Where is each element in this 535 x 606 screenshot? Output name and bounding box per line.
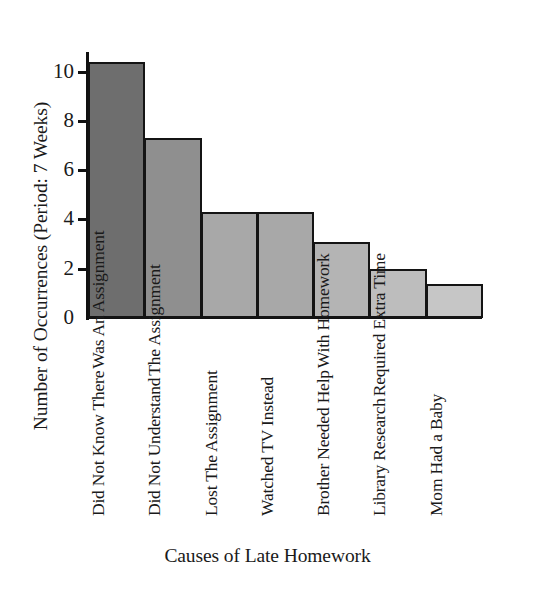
bar[interactable]	[201, 212, 258, 318]
y-axis-tick-label-wrap: 0	[40, 318, 74, 319]
y-axis-tick	[78, 169, 87, 172]
x-axis-tick-label-line: Was An Assignment	[88, 231, 109, 371]
x-axis-tick-label: Watched TV Instead	[257, 322, 313, 518]
x-axis-tick-label-line: Required Extra Time	[369, 253, 390, 398]
x-axis-tick-label-line: Brother Needed Help	[313, 370, 334, 518]
y-axis-tick-label-wrap: 6	[40, 170, 74, 171]
x-axis-tick-label: Brother Needed HelpWith Homework	[313, 322, 369, 518]
x-axis-tick-label: Lost The Assignment	[201, 322, 257, 518]
x-axis-tick-label-line: Mom Had a Baby	[426, 394, 447, 518]
bar-chart: Number of Occurrences (Period: 7 Weeks) …	[0, 0, 535, 606]
x-axis-tick-label: Library ResearchRequired Extra Time	[369, 322, 425, 518]
y-axis-tick-label: 8	[46, 110, 74, 131]
x-axis-tick-label-line: Did Not Understand	[144, 378, 165, 518]
y-axis-tick-label: 4	[46, 208, 74, 229]
y-axis-tick	[78, 120, 87, 123]
y-axis-tick-label: 0	[46, 307, 74, 328]
y-axis-tick-label-wrap: 8	[40, 121, 74, 122]
y-axis-tick-label-wrap: 10	[40, 72, 74, 73]
bar[interactable]	[257, 212, 314, 318]
x-axis-tick-label: Mom Had a Baby	[426, 322, 482, 518]
y-axis-tick-label: 10	[46, 61, 74, 82]
y-axis-tick	[78, 268, 87, 271]
y-axis-tick-label: 6	[46, 159, 74, 180]
x-axis-title: Causes of Late Homework	[0, 545, 535, 567]
x-axis-tick-label-line: With Homework	[313, 253, 334, 370]
x-axis-tick-label-line: The Assignment	[144, 264, 165, 377]
y-axis-tick-label-wrap: 4	[40, 219, 74, 220]
y-axis-tick	[78, 218, 87, 221]
y-axis-tick-label-wrap: 2	[40, 269, 74, 270]
x-axis-tick-label-line: Lost The Assignment	[201, 370, 222, 518]
y-axis-tick	[78, 71, 87, 74]
x-axis-tick-label-line: Library Research	[369, 398, 390, 518]
x-axis-tick-label: Did Not Know ThereWas An Assignment	[88, 322, 144, 518]
bar[interactable]	[426, 284, 483, 318]
x-axis-tick-label-line: Did Not Know There	[88, 371, 109, 518]
x-axis-tick-label-line: Watched TV Instead	[257, 377, 278, 518]
y-axis-tick-label: 2	[46, 258, 74, 279]
x-axis-tick-label: Did Not UnderstandThe Assignment	[144, 322, 200, 518]
x-axis-tick-labels: Did Not Know ThereWas An AssignmentDid N…	[88, 322, 482, 518]
